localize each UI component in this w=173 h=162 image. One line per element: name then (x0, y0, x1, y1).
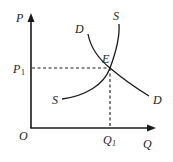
price-axis-arrow-icon (28, 13, 35, 22)
quantity-axis-label: Q (143, 137, 152, 151)
origin-label: O (19, 129, 28, 143)
price-axis-label: P (15, 11, 24, 25)
price-axis (28, 13, 35, 128)
quantity-axis (30, 125, 156, 132)
svg-text:P: P (12, 62, 21, 76)
quantity-axis-arrow-icon (147, 125, 156, 132)
svg-text:1: 1 (112, 139, 116, 148)
equilibrium-quantity-label: Q 1 (103, 133, 116, 148)
supply-label-top: S (113, 9, 119, 23)
equilibrium-point-label: E (101, 52, 110, 66)
svg-text:1: 1 (21, 68, 25, 77)
svg-text:Q: Q (103, 133, 112, 147)
demand-label-top: D (74, 22, 84, 36)
supply-label-bottom: S (52, 93, 58, 107)
demand-label-bottom: D (152, 93, 162, 107)
supply-demand-diagram: P Q O S S D D E P 1 Q 1 (0, 0, 173, 162)
demand-curve (88, 34, 149, 96)
supply-curve (62, 24, 119, 99)
equilibrium-price-label: P 1 (12, 62, 25, 77)
